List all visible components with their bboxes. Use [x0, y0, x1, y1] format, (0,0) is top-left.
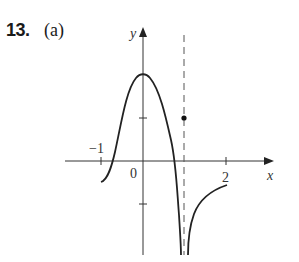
x-tick-label-2: 2	[222, 170, 229, 185]
isolated-point	[181, 115, 186, 120]
x-axis-arrow-icon	[264, 157, 274, 165]
curve-right-branch	[188, 185, 227, 255]
y-axis-arrow-icon	[139, 27, 147, 37]
y-axis-label: y	[128, 26, 137, 41]
x-tick-label-0: 0	[130, 166, 137, 181]
x-tick-label-minus1: −1	[89, 141, 104, 156]
function-graph: −1 0 2 x y	[0, 0, 299, 262]
x-axis-label: x	[266, 168, 274, 183]
curve-left-branch	[101, 74, 181, 255]
